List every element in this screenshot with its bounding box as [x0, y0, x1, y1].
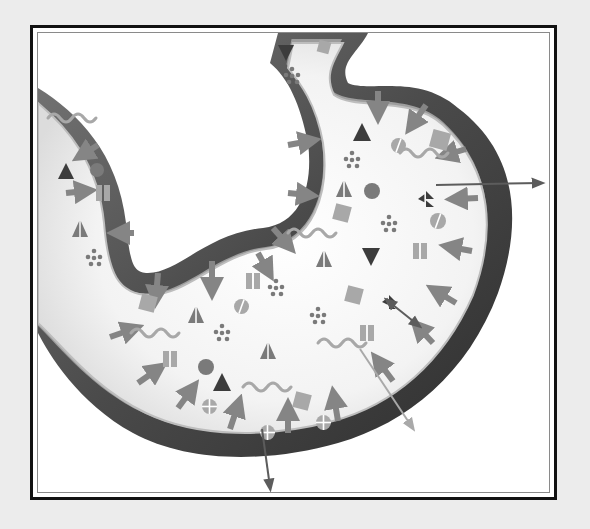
half-circle-molecule-icon: [430, 213, 446, 229]
stomach-wall: [38, 33, 512, 457]
absorption-arrow-icon: [334, 397, 338, 421]
absorption-arrow-icon: [456, 198, 478, 199]
cross-circle-molecule-icon: [316, 415, 331, 430]
circle-molecule-icon: [90, 163, 104, 177]
absorption-arrow-icon: [288, 193, 308, 195]
circle-molecule-icon: [198, 359, 214, 375]
absorption-arrow-icon: [66, 191, 86, 193]
circle-molecule-icon: [364, 183, 380, 199]
absorption-arrow-icon: [450, 247, 472, 251]
absorption-arrow-icon: [156, 273, 158, 297]
diagram-frame: [30, 25, 557, 500]
absorption-arrow-icon: [288, 141, 310, 145]
diagram-canvas: [37, 32, 550, 493]
cross-circle-molecule-icon: [202, 399, 217, 414]
half-circle-molecule-icon: [234, 299, 249, 314]
stomach-absorption-diagram: [38, 33, 549, 492]
